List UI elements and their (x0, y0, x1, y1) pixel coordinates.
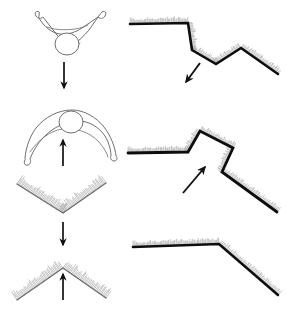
figure-canvas (0, 0, 287, 311)
figure-root: Concave and convex surface perception di… (0, 0, 287, 311)
pose-head-icon (59, 111, 83, 133)
pose-head-icon (55, 33, 79, 55)
